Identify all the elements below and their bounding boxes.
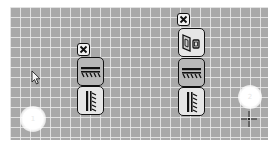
close-x-icon [179,15,188,24]
right-horizontal-hatch-button[interactable] [178,58,205,87]
right-door-window-button[interactable] [178,28,205,57]
glow-marker-left[interactable]: 1 [20,106,46,132]
marker-label: 1 [20,106,46,132]
horizontal-hatch-surface-icon [181,66,202,80]
door-window-icon [181,33,202,53]
close-x-icon [79,45,88,54]
left-toolbar-close-button[interactable] [77,43,90,56]
right-toolbar-close-button[interactable] [177,13,190,26]
arrow-pointer-icon [31,70,42,85]
marker-label: 2 [238,85,262,109]
left-horizontal-hatch-button[interactable] [77,57,104,86]
drawing-canvas[interactable] [10,7,268,140]
vertical-hatch-surface-icon [184,91,200,113]
right-vertical-hatch-button[interactable] [178,87,205,116]
glow-marker-right[interactable]: 2 [238,85,262,109]
vertical-hatch-surface-icon [83,90,99,112]
crosshair-icon [240,110,258,128]
left-vertical-hatch-button[interactable] [77,86,104,115]
horizontal-hatch-surface-icon [80,65,101,79]
